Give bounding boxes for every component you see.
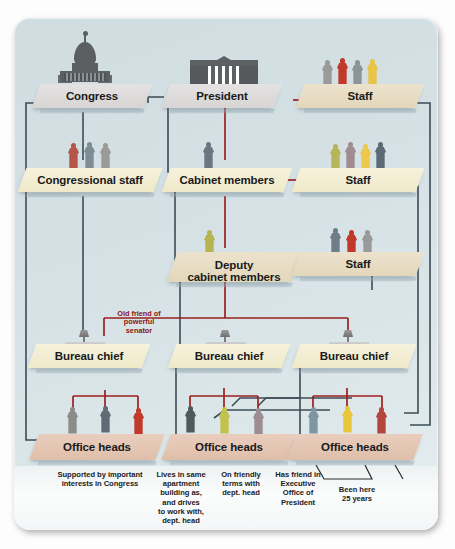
node-shadow bbox=[299, 193, 416, 197]
annotation-has-friend-in-eop: Has friend in Executive Office of Presid… bbox=[268, 470, 328, 507]
annotation-been-here-25-years: Been here 25 years bbox=[326, 485, 388, 503]
node-shadow bbox=[175, 369, 282, 373]
node-shadow bbox=[25, 193, 154, 197]
node-office-heads-2[interactable]: Office heads bbox=[166, 434, 292, 460]
annotation-on-friendly-terms: On friendly terms with dept. head bbox=[212, 470, 270, 498]
node-bureau-chief-1[interactable]: Bureau chief bbox=[32, 344, 146, 368]
node-office-heads-1[interactable]: Office heads bbox=[34, 434, 160, 460]
node-congressional-staff[interactable]: Congressional staff bbox=[22, 168, 158, 192]
node-label-president: President bbox=[166, 90, 278, 103]
node-shadow bbox=[35, 369, 142, 373]
node-label-bureau-chief-2: Bureau chief bbox=[172, 350, 286, 363]
node-label-bureau-chief-3: Bureau chief bbox=[296, 350, 412, 363]
node-label-staff-low: Staff bbox=[296, 258, 420, 271]
node-shadow bbox=[295, 461, 414, 465]
node-label-staff-top: Staff bbox=[300, 90, 420, 103]
node-bureau-chief-3[interactable]: Bureau chief bbox=[296, 344, 412, 368]
node-label-office-heads-2: Office heads bbox=[166, 441, 292, 454]
node-label-bureau-chief-1: Bureau chief bbox=[32, 350, 146, 363]
annotation-lives-in-same-building: Lives in same apartment building as, and… bbox=[150, 470, 212, 525]
node-shadow bbox=[169, 193, 284, 197]
node-staff-top[interactable]: Staff bbox=[300, 84, 420, 108]
node-label-office-heads-3: Office heads bbox=[292, 441, 418, 454]
node-label-congressional-staff: Congressional staff bbox=[22, 174, 158, 187]
node-congress[interactable]: Congress bbox=[36, 84, 148, 108]
node-cabinet-members[interactable]: Cabinet members bbox=[166, 168, 288, 192]
node-label-staff-mid: Staff bbox=[296, 174, 420, 187]
node-label-congress: Congress bbox=[36, 90, 148, 103]
node-label-deputy-line1: Deputy bbox=[172, 259, 296, 271]
node-president[interactable]: President bbox=[166, 84, 278, 108]
node-staff-mid[interactable]: Staff bbox=[296, 168, 420, 192]
diagram-canvas: Congress President Staff Congressional s… bbox=[0, 0, 455, 549]
node-staff-low[interactable]: Staff bbox=[296, 252, 420, 276]
node-shadow bbox=[39, 109, 144, 113]
node-label-deputy-line2: cabinet members bbox=[172, 271, 296, 283]
node-label-office-heads-1: Office heads bbox=[34, 441, 160, 454]
node-shadow bbox=[175, 283, 292, 287]
annotation-old-friend: Old friend of powerful senator bbox=[98, 310, 180, 335]
capitol-icon bbox=[58, 42, 112, 84]
node-shadow bbox=[303, 109, 416, 113]
node-shadow bbox=[37, 461, 156, 465]
node-bureau-chief-2[interactable]: Bureau chief bbox=[172, 344, 286, 368]
node-shadow bbox=[169, 109, 274, 113]
node-shadow bbox=[299, 277, 416, 281]
node-deputy-cabinet-members[interactable]: Deputy cabinet members bbox=[172, 252, 296, 282]
node-office-heads-3[interactable]: Office heads bbox=[292, 434, 418, 460]
annotation-supported-by-interests: Supported by important interests in Cong… bbox=[36, 470, 164, 488]
node-label-cabinet-members: Cabinet members bbox=[166, 174, 288, 187]
node-shadow bbox=[169, 461, 288, 465]
node-shadow bbox=[299, 369, 408, 373]
